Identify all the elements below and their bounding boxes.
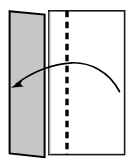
panel	[10, 11, 45, 157]
swing-direction-diagram: Hinged panel swing direction diagram Rec…	[0, 0, 133, 165]
diagram-canvas: Hinged panel swing direction diagram Rec…	[0, 0, 133, 165]
